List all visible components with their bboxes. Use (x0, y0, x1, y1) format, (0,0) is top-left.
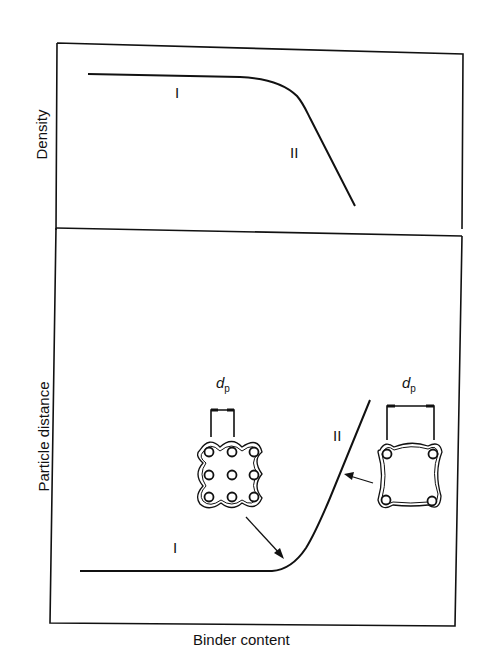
bottom-region-label-1: I (173, 539, 177, 556)
bottom-region-label-2: II (333, 427, 341, 444)
dp-subscript: p (410, 383, 416, 394)
top-panel-frame (56, 43, 463, 230)
y-axis-label-density: Density (33, 107, 50, 163)
arrow-dense-to-curve (246, 517, 284, 559)
top-region-label-1: I (175, 84, 179, 101)
bottom-panel-frame (50, 228, 462, 626)
diagram-canvas (0, 0, 481, 672)
arrow-loose-to-curve (344, 472, 373, 483)
top-region-label-2: II (290, 144, 298, 161)
panel-divider (56, 228, 462, 236)
x-axis-label: Binder content (193, 631, 290, 648)
dp-subscript: p (224, 383, 230, 394)
inset-loose-dp-label: dp (402, 374, 416, 394)
inset-dense-packing (198, 410, 262, 508)
inset-dense-dp-label: dp (216, 374, 230, 394)
particle-distance-curve (80, 400, 370, 571)
y-axis-label-particle-distance: Particle distance (35, 374, 52, 500)
density-curve (88, 74, 355, 206)
inset-loose-packing (378, 406, 442, 508)
